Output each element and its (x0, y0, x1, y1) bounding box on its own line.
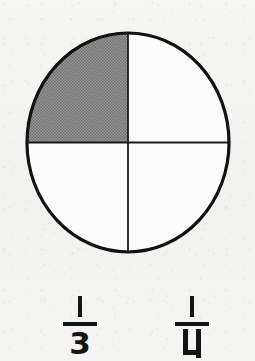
answer-option-one-fourth[interactable] (163, 296, 221, 358)
answer-options: 3 (0, 296, 255, 349)
denominator-three: 3 (51, 329, 109, 358)
digit-one-stroke (78, 296, 82, 317)
numerator-one (163, 296, 221, 318)
answer-option-one-third[interactable]: 3 (51, 296, 109, 358)
denominator-four (163, 329, 221, 358)
digit-one-stroke (190, 296, 194, 317)
fraction-bar (175, 322, 209, 326)
digit-four-right-stem (196, 329, 201, 358)
numerator-one (51, 296, 109, 318)
fraction-circle-figure (24, 30, 232, 255)
